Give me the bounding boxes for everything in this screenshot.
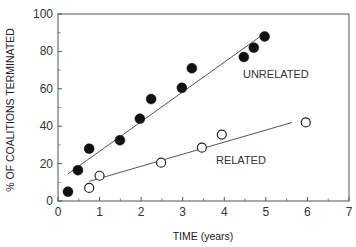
x-tick-label: 3 — [179, 205, 186, 219]
related-point — [85, 183, 94, 192]
unrelated-point — [63, 187, 73, 197]
related-point — [301, 118, 310, 127]
related-point — [217, 130, 226, 139]
related-point — [197, 143, 206, 152]
unrelated-point — [177, 83, 187, 93]
related-fit-line — [89, 122, 292, 181]
unrelated-point — [239, 52, 249, 62]
annotations: UNRELATEDRELATED — [216, 68, 309, 166]
unrelated-point — [146, 94, 156, 104]
related-point — [95, 171, 104, 180]
y-tick-label: 0 — [46, 194, 53, 208]
unrelated-point — [135, 114, 145, 124]
unrelated-point — [249, 43, 259, 53]
chart: 020406080100 01234567 UNRELATEDRELATED T… — [0, 0, 356, 247]
x-tick-label: 7 — [346, 205, 353, 219]
y-tick-label: 20 — [40, 157, 54, 171]
y-tick-label: 40 — [40, 119, 54, 133]
y-tick-label: 60 — [40, 82, 54, 96]
x-tick-label: 2 — [138, 205, 145, 219]
annotation-unrelated: UNRELATED — [243, 68, 309, 80]
x-axis: 01234567 — [55, 197, 353, 219]
x-tick-label: 0 — [55, 205, 62, 219]
x-tick-label: 6 — [304, 205, 311, 219]
unrelated-point — [115, 135, 125, 145]
x-tick-label: 1 — [96, 205, 103, 219]
y-tick-label: 100 — [33, 7, 53, 21]
annotation-related: RELATED — [216, 154, 266, 166]
y-tick-label: 80 — [40, 44, 54, 58]
unrelated-point — [73, 165, 83, 175]
data-points — [63, 31, 310, 196]
related-point — [157, 158, 166, 167]
unrelated-point — [84, 144, 94, 154]
x-axis-title: TIME (years) — [173, 230, 234, 242]
x-tick-label: 4 — [221, 205, 228, 219]
x-tick-label: 5 — [263, 205, 270, 219]
y-axis-title: % OF COALITIONS TERMINATED — [4, 28, 16, 192]
unrelated-point — [187, 63, 197, 73]
unrelated-point — [260, 31, 270, 41]
